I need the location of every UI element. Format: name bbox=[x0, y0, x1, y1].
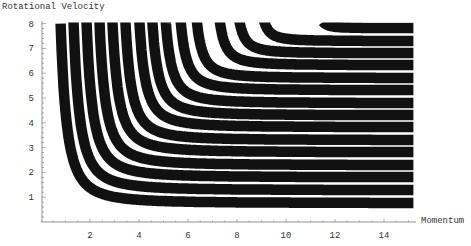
bands-group bbox=[61, 9, 416, 203]
x-tick-label: 10 bbox=[281, 231, 292, 241]
x-tick-label: 12 bbox=[330, 231, 341, 241]
x-tick-label: 4 bbox=[136, 231, 141, 241]
y-tick-label: 6 bbox=[29, 69, 34, 79]
x-tick-label: 8 bbox=[234, 231, 239, 241]
y-tick-label: 4 bbox=[29, 119, 34, 129]
band-15 bbox=[323, 22, 416, 28]
x-axis-label: Momentum bbox=[421, 216, 464, 226]
band-plot: 246810121412345678 Rotational Velocity M… bbox=[0, 0, 471, 246]
x-tick-label: 6 bbox=[185, 231, 190, 241]
y-tick-label: 1 bbox=[29, 193, 34, 203]
y-tick-label: 3 bbox=[29, 144, 34, 154]
chart-root: 246810121412345678 Rotational Velocity M… bbox=[0, 0, 471, 246]
y-tick-label: 7 bbox=[29, 44, 34, 54]
x-tick-label: 14 bbox=[379, 231, 390, 241]
y-tick-label: 5 bbox=[29, 94, 34, 104]
y-axis-label: Rotational Velocity bbox=[2, 2, 105, 12]
y-tick-label: 2 bbox=[29, 168, 34, 178]
x-tick-label: 2 bbox=[87, 231, 92, 241]
y-tick-label: 8 bbox=[29, 20, 34, 30]
